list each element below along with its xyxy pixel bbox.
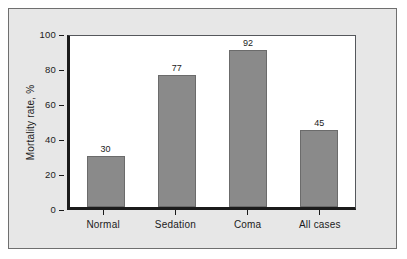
- bar-value-label: 92: [213, 38, 284, 48]
- bar-sedation[interactable]: [158, 75, 196, 207]
- figure-panel: Mortality rate, % 100 80 60 40 20: [8, 8, 397, 249]
- figure-root: Mortality rate, % 100 80 60 40 20: [0, 0, 407, 259]
- bar-group-all-cases[interactable]: 45: [284, 36, 355, 207]
- y-tick-mark-icon: [59, 210, 64, 211]
- bar-group-sedation[interactable]: 77: [141, 36, 212, 207]
- bar-group-coma[interactable]: 92: [213, 36, 284, 207]
- bar-value-label: 30: [70, 144, 141, 154]
- x-tick-normal: Normal: [67, 210, 139, 250]
- x-tick-label: All cases: [299, 219, 341, 230]
- bar-value-label: 45: [284, 118, 355, 128]
- plot-area: 30 77 92 45: [67, 35, 356, 210]
- x-tick-mark-icon: [175, 210, 176, 215]
- x-tick-label: Coma: [234, 219, 261, 230]
- bar-value-label: 77: [141, 63, 212, 73]
- y-tick-label: 60: [45, 100, 59, 110]
- y-tick-label: 40: [45, 135, 59, 145]
- y-tick-mark-icon: [59, 105, 64, 106]
- x-tick-mark-icon: [247, 210, 248, 215]
- x-tick-mark-icon: [103, 210, 104, 215]
- bar-normal[interactable]: [87, 156, 125, 207]
- y-tick-label: 20: [45, 170, 59, 180]
- x-tick-sedation: Sedation: [139, 210, 211, 250]
- bars-layer: 30 77 92 45: [70, 36, 355, 207]
- y-axis: 100 80 60 40 20 0: [9, 35, 67, 210]
- y-tick-label: 0: [51, 205, 59, 215]
- bar-coma[interactable]: [229, 50, 267, 207]
- y-tick-mark-icon: [59, 70, 64, 71]
- bar-group-normal[interactable]: 30: [70, 36, 141, 207]
- y-tick-label: 100: [40, 30, 59, 40]
- y-tick-mark-icon: [59, 140, 64, 141]
- y-tick-label: 80: [45, 65, 59, 75]
- x-tick-all-cases: All cases: [284, 210, 356, 250]
- x-tick-label: Normal: [86, 219, 119, 230]
- x-tick-mark-icon: [319, 210, 320, 215]
- x-axis: Normal Sedation Coma All cases: [67, 210, 356, 250]
- y-tick-mark-icon: [59, 175, 64, 176]
- x-tick-label: Sedation: [155, 219, 196, 230]
- x-tick-coma: Coma: [212, 210, 284, 250]
- y-tick-mark-icon: [59, 35, 64, 36]
- bar-all-cases[interactable]: [300, 130, 338, 207]
